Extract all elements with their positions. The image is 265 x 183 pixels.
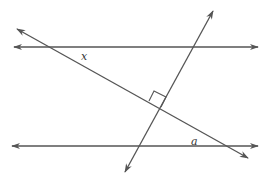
angle-label-a: a — [191, 135, 198, 148]
transversal-falling — [17, 29, 248, 158]
transversal-rising — [125, 11, 213, 172]
geometry-diagram: x a — [0, 0, 265, 183]
angle-label-x: x — [81, 50, 88, 63]
